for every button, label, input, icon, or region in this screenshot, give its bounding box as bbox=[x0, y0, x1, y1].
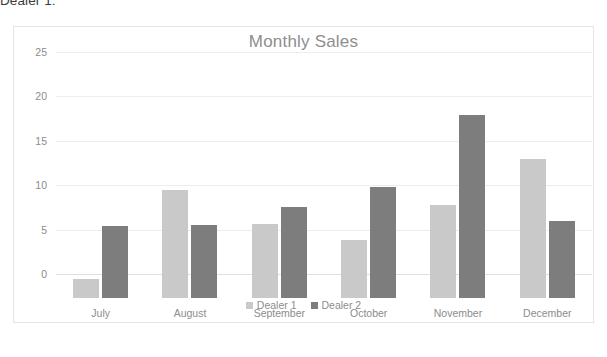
legend-label-dealer-1: Dealer 1 bbox=[257, 299, 297, 311]
chart-legend: Dealer 1Dealer 2 bbox=[14, 299, 593, 311]
chart-title: Monthly Sales bbox=[14, 32, 593, 52]
y-tick-label-0: 0 bbox=[41, 268, 47, 280]
legend-item-dealer-2[interactable]: Dealer 2 bbox=[311, 299, 362, 311]
bar-group-september: September bbox=[235, 76, 324, 298]
gridline-25 bbox=[56, 52, 592, 53]
bar-july-dealer-2[interactable] bbox=[102, 226, 128, 298]
legend-item-dealer-1[interactable]: Dealer 1 bbox=[246, 299, 297, 311]
chart-container[interactable]: Monthly Sales 0510152025 JulyAugustSepte… bbox=[13, 26, 594, 323]
bar-september-dealer-1[interactable] bbox=[252, 224, 278, 298]
bar-august-dealer-2[interactable] bbox=[191, 225, 217, 298]
bar-november-dealer-1[interactable] bbox=[430, 205, 456, 298]
bar-october-dealer-2[interactable] bbox=[370, 187, 396, 298]
bar-group-november: November bbox=[413, 76, 502, 298]
bar-group-october: October bbox=[324, 76, 413, 298]
y-tick-label-25: 25 bbox=[35, 46, 47, 58]
document-text-above-chart: Dealer 1: bbox=[0, 0, 56, 8]
bar-december-dealer-1[interactable] bbox=[520, 159, 546, 298]
y-tick-label-5: 5 bbox=[41, 224, 47, 236]
bar-december-dealer-2[interactable] bbox=[549, 221, 575, 298]
legend-swatch-dealer-1 bbox=[246, 302, 253, 309]
legend-label-dealer-2: Dealer 2 bbox=[322, 299, 362, 311]
bar-august-dealer-1[interactable] bbox=[162, 190, 188, 298]
y-tick-label-20: 20 bbox=[35, 90, 47, 102]
bar-september-dealer-2[interactable] bbox=[281, 207, 307, 298]
bar-group-august: August bbox=[145, 76, 234, 298]
legend-swatch-dealer-2 bbox=[311, 302, 318, 309]
bar-groups: JulyAugustSeptemberOctoberNovemberDecemb… bbox=[56, 76, 592, 298]
bar-group-july: July bbox=[56, 76, 145, 298]
bar-october-dealer-1[interactable] bbox=[341, 240, 367, 298]
bar-july-dealer-1[interactable] bbox=[73, 279, 99, 298]
y-tick-label-10: 10 bbox=[35, 179, 47, 191]
bar-november-dealer-2[interactable] bbox=[459, 115, 485, 298]
plot-area: 0510152025 JulyAugustSeptemberOctoberNov… bbox=[56, 52, 592, 298]
bar-group-december: December bbox=[503, 76, 592, 298]
y-tick-label-15: 15 bbox=[35, 135, 47, 147]
